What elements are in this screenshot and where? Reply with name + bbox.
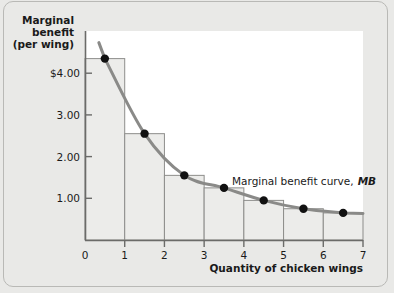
bar <box>164 175 204 240</box>
data-point-marker <box>260 196 268 204</box>
data-point-marker <box>299 205 307 213</box>
x-axis-tick-label: 4 <box>241 249 248 261</box>
y-axis-title-line-2: benefit <box>32 26 74 38</box>
x-axis-tick-label: 1 <box>121 249 128 261</box>
curve-annotation-label: Marginal benefit curve, <box>232 175 354 187</box>
figure-container: 1.002.003.00$4.00 01234567 Marginal bene… <box>0 0 394 293</box>
bar <box>284 209 324 240</box>
data-point-marker <box>180 171 188 179</box>
x-axis-tick-labels: 01234567 <box>82 249 367 261</box>
y-axis-tick-labels: 1.002.003.00$4.00 <box>50 67 80 204</box>
x-axis-tick-label: 3 <box>201 249 208 261</box>
data-point-marker <box>339 209 347 217</box>
x-axis-tick-label: 7 <box>360 249 367 261</box>
y-axis-title-line-3: (per wing) <box>13 38 74 50</box>
x-axis-tick-label: 6 <box>320 249 327 261</box>
data-point-marker <box>220 184 228 192</box>
bar <box>204 188 244 240</box>
y-axis-title-line-1: Marginal <box>22 14 74 26</box>
y-axis-tick-label: 2.00 <box>57 151 80 163</box>
x-axis-tick-label: 5 <box>280 249 287 261</box>
y-axis-tick-label: 3.00 <box>57 109 80 121</box>
data-point-marker <box>101 54 109 62</box>
marginal-benefit-chart: 1.002.003.00$4.00 01234567 Marginal bene… <box>0 0 394 293</box>
x-axis-title: Quantity of chicken wings <box>209 262 363 274</box>
y-axis-tick-label: 1.00 <box>57 192 80 204</box>
x-axis-tick-label: 2 <box>161 249 168 261</box>
x-axis-tick-label: 0 <box>82 249 89 261</box>
y-axis-tick-label: $4.00 <box>50 67 80 79</box>
data-point-marker <box>140 129 148 137</box>
bar <box>244 200 284 240</box>
curve-annotation-emphasis: MB <box>358 175 376 187</box>
